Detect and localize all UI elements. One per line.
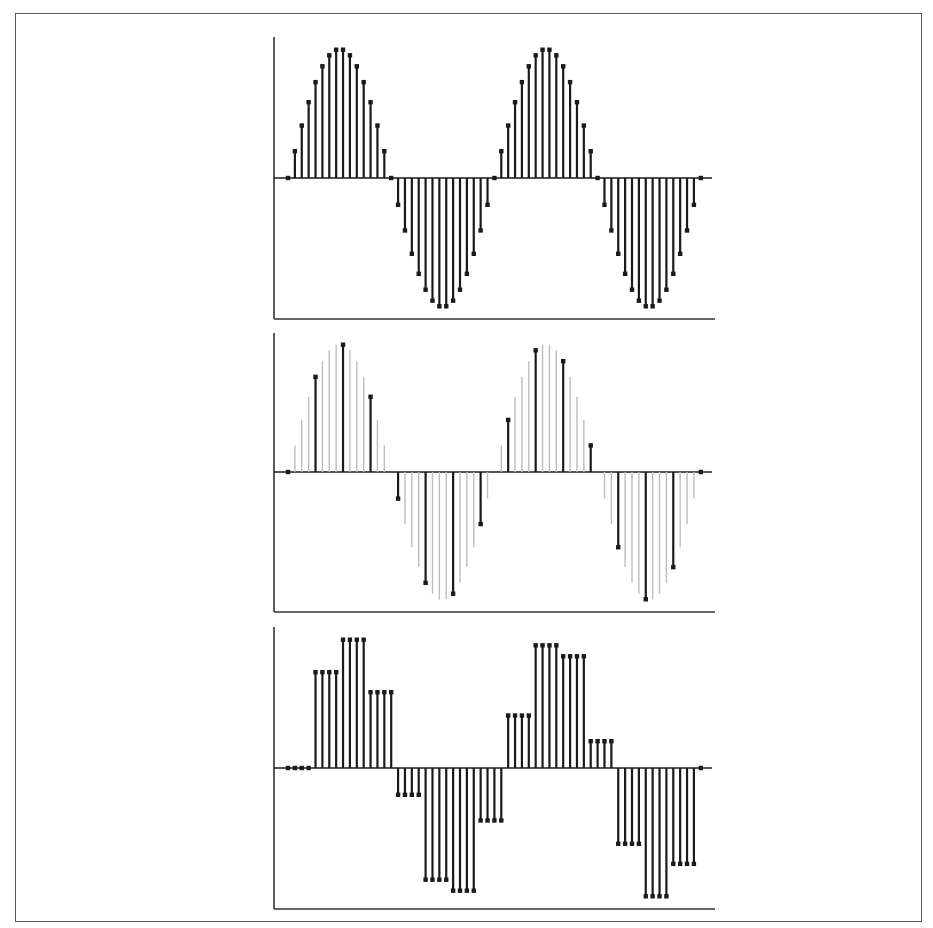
stem-marker [472, 888, 476, 892]
stem-marker [699, 766, 703, 770]
stem-marker [533, 53, 537, 57]
stem-marker [334, 48, 338, 52]
stem-plots [0, 0, 933, 928]
stem-marker [547, 48, 551, 52]
stem-marker [644, 304, 648, 308]
stem-marker [451, 298, 455, 302]
stem-marker [616, 252, 620, 256]
stem-marker [341, 638, 345, 642]
stem-marker [609, 228, 613, 232]
stem-marker [499, 818, 503, 822]
stem-marker [506, 713, 510, 717]
stem-marker [286, 766, 290, 770]
stem-marker [575, 654, 579, 658]
stem-marker [293, 149, 297, 153]
stem-marker [348, 638, 352, 642]
stem-marker [300, 766, 304, 770]
stem-marker [547, 643, 551, 647]
stem-marker [293, 766, 297, 770]
stem-marker [396, 793, 400, 797]
stem-marker [692, 862, 696, 866]
stem-marker [444, 878, 448, 882]
stem-marker [437, 304, 441, 308]
stem-marker [423, 581, 427, 585]
panel-original-samples [274, 37, 715, 319]
stem-marker [589, 739, 593, 743]
stem-marker [423, 288, 427, 292]
stem-marker [644, 894, 648, 898]
stem-marker [389, 690, 393, 694]
stem-marker [320, 64, 324, 68]
stem-marker [348, 53, 352, 57]
stem-marker [650, 304, 654, 308]
stem-marker [478, 818, 482, 822]
stem-marker [478, 228, 482, 232]
stem-marker [699, 176, 703, 180]
stem-marker [499, 149, 503, 153]
stem-marker [513, 713, 517, 717]
stem-marker [341, 343, 345, 347]
stem-marker [355, 64, 359, 68]
stem-marker [664, 894, 668, 898]
stem-marker [540, 48, 544, 52]
stem-marker [616, 842, 620, 846]
stem-marker [692, 203, 696, 207]
stem-marker [430, 878, 434, 882]
stem-marker [623, 272, 627, 276]
stem-marker [568, 80, 572, 84]
stem-marker [286, 176, 290, 180]
stem-marker [368, 395, 372, 399]
stem-marker [341, 48, 345, 52]
stem-marker [458, 288, 462, 292]
stem-marker [382, 690, 386, 694]
stem-marker [313, 670, 317, 674]
stem-marker [389, 176, 393, 180]
stem-marker [527, 64, 531, 68]
stem-marker [630, 842, 634, 846]
stem-marker [375, 690, 379, 694]
stem-marker [671, 272, 675, 276]
stem-marker [533, 643, 537, 647]
stem-marker [644, 597, 648, 601]
stem-marker [313, 80, 317, 84]
stem-marker [410, 252, 414, 256]
stem-marker [664, 288, 668, 292]
stem-marker [458, 888, 462, 892]
stem-marker [403, 228, 407, 232]
stem-marker [300, 123, 304, 127]
stem-marker [685, 228, 689, 232]
stem-marker [589, 149, 593, 153]
stem-marker [602, 739, 606, 743]
stem-marker [678, 252, 682, 256]
stem-marker [361, 80, 365, 84]
stem-marker [368, 100, 372, 104]
stem-marker [396, 496, 400, 500]
stem-marker [472, 252, 476, 256]
stem-marker [368, 690, 372, 694]
stem-marker [492, 176, 496, 180]
stem-marker [465, 272, 469, 276]
stem-marker [423, 878, 427, 882]
stem-marker [465, 888, 469, 892]
stem-marker [306, 100, 310, 104]
stem-marker [671, 862, 675, 866]
stem-marker [430, 298, 434, 302]
stem-marker [417, 272, 421, 276]
stem-marker [554, 53, 558, 57]
stem-marker [520, 80, 524, 84]
stem-marker [327, 670, 331, 674]
stem-marker [286, 470, 290, 474]
stem-marker [568, 654, 572, 658]
stem-marker [595, 176, 599, 180]
stem-marker [485, 818, 489, 822]
stem-marker [609, 739, 613, 743]
panel-sample-and-hold [274, 627, 715, 909]
stem-marker [533, 348, 537, 352]
stem-marker [396, 203, 400, 207]
stem-marker [561, 64, 565, 68]
stem-marker [355, 638, 359, 642]
stem-marker [595, 739, 599, 743]
stem-marker [375, 123, 379, 127]
stem-marker [361, 638, 365, 642]
stem-marker [616, 545, 620, 549]
